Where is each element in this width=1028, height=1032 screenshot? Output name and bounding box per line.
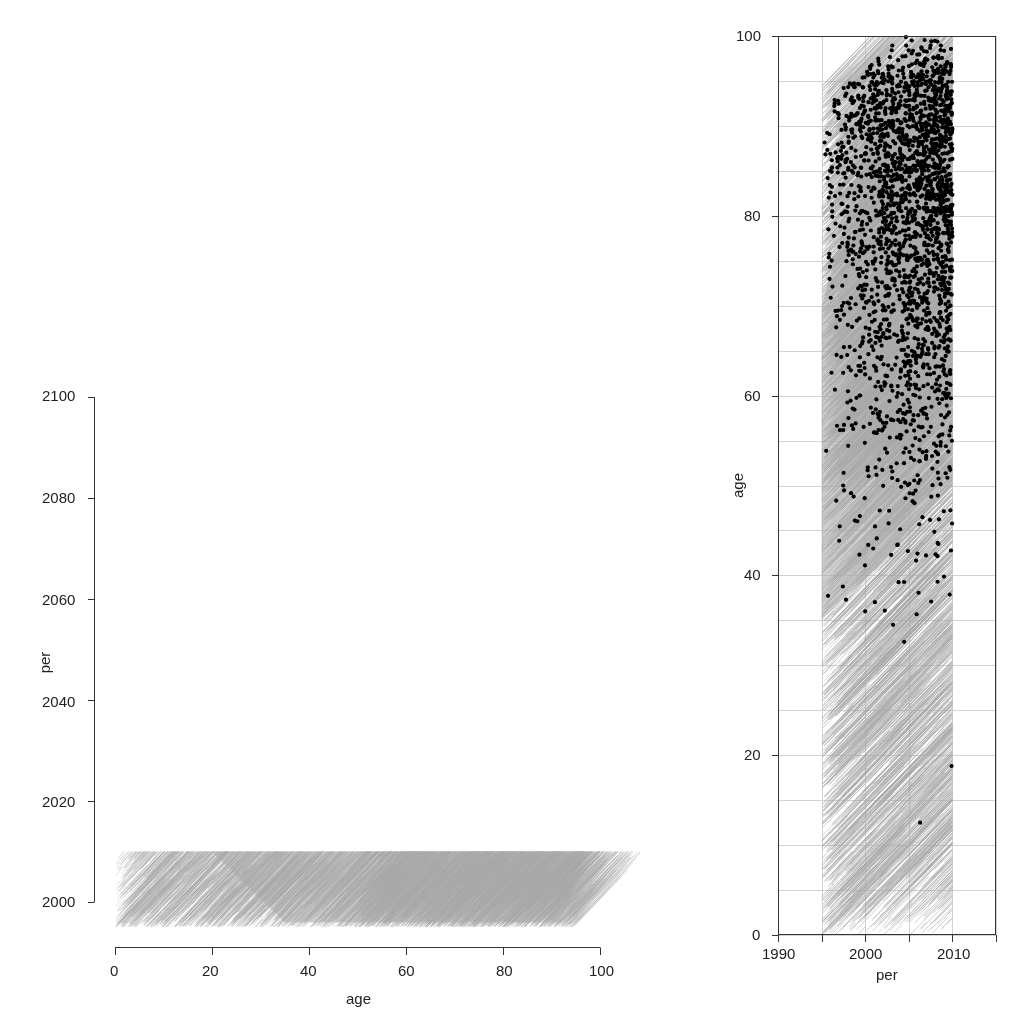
left-x-tick: 0 — [110, 962, 118, 979]
right-y-tick: 60 — [744, 387, 761, 404]
right-y-axis-title: age — [729, 473, 746, 498]
right-x-tick: 2010 — [937, 945, 970, 962]
right-y-tick: 100 — [736, 27, 761, 44]
left-y-tick: 2020 — [42, 793, 75, 810]
left-plot-area — [0, 0, 640, 1032]
right-y-tick: 20 — [744, 746, 761, 763]
right-y-tick: 40 — [744, 566, 761, 583]
right-y-tick: 0 — [752, 926, 760, 943]
left-y-axis-title: per — [36, 652, 53, 674]
right-x-axis-title: per — [876, 966, 898, 983]
left-x-axis-title: age — [346, 990, 371, 1007]
left-chart: 2100 2080 2060 2040 2020 2000 0 20 40 60… — [0, 0, 640, 1032]
left-x-tick: 20 — [202, 962, 219, 979]
left-y-tick: 2040 — [42, 693, 75, 710]
left-y-tick: 2080 — [42, 489, 75, 506]
right-y-tick: 80 — [744, 207, 761, 224]
left-y-tick: 2100 — [42, 387, 75, 404]
left-x-tick: 80 — [496, 962, 513, 979]
left-y-tick: 2000 — [42, 893, 75, 910]
left-y-tick: 2060 — [42, 591, 75, 608]
left-x-tick: 60 — [398, 962, 415, 979]
left-x-tick: 100 — [589, 962, 614, 979]
left-x-tick: 40 — [300, 962, 317, 979]
right-x-tick: 1990 — [762, 945, 795, 962]
right-x-tick: 2000 — [849, 945, 882, 962]
